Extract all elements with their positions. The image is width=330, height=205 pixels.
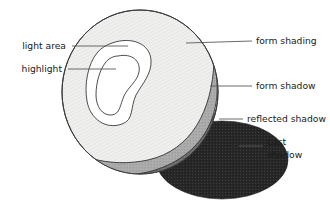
label-form-shadow: form shadow (256, 80, 316, 91)
label-form-shading: form shading (256, 35, 317, 46)
label-highlight: highlight (22, 63, 63, 74)
sphere-shading-diagram: light area highlight form shading form s… (0, 0, 330, 205)
label-cast-shadow-line1: cast (267, 136, 286, 147)
label-light-area: light area (22, 40, 66, 51)
label-cast-shadow-line2: shadow (267, 149, 303, 160)
label-reflected-shadow: reflected shadow (247, 113, 326, 124)
